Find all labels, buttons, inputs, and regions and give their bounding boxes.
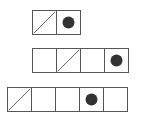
cell-dot: [79, 87, 104, 112]
cell-empty: [55, 87, 80, 112]
diagonal-slash-icon: [33, 11, 56, 34]
black-dot-icon: [57, 11, 80, 34]
black-dot-icon: [80, 88, 103, 111]
cell-slash: [32, 10, 57, 35]
diagonal-slash-icon: [57, 49, 80, 72]
cell-slash: [56, 48, 81, 73]
black-dot-icon: [105, 49, 128, 72]
cell-empty: [103, 87, 128, 112]
cell-dot: [56, 10, 81, 35]
sequence-row-1: [32, 10, 81, 35]
cell-empty: [31, 87, 56, 112]
cell-dot: [104, 48, 129, 73]
diagonal-slash-icon: [8, 88, 31, 111]
sequence-row-3: [7, 87, 128, 112]
cell-empty: [32, 48, 57, 73]
sequence-row-2: [32, 48, 129, 73]
cell-slash: [7, 87, 32, 112]
cell-empty: [80, 48, 105, 73]
